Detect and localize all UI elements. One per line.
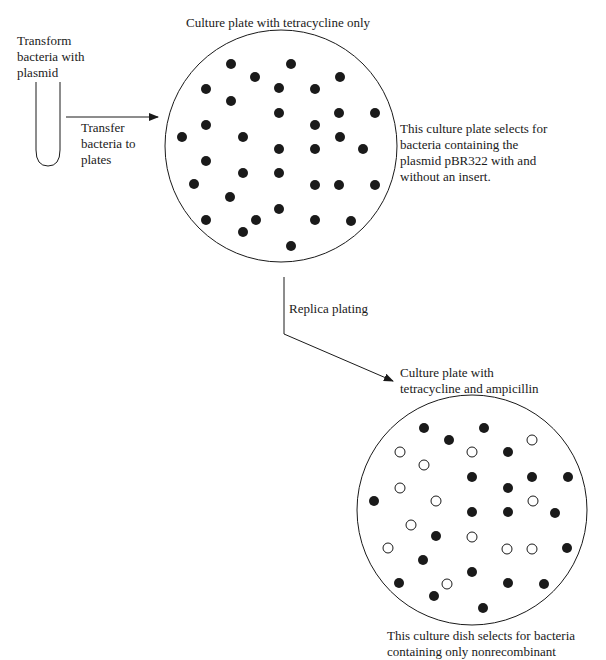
bacterial-colony-growing [310, 144, 320, 154]
bacterial-colony-absent [419, 460, 429, 470]
bacterial-colony-growing [467, 567, 477, 577]
bacterial-colony-growing [334, 180, 344, 190]
transform-label: Transform bacteria with plasmid [17, 33, 85, 81]
bacterial-colony-absent [528, 496, 538, 506]
bacterial-colony-absent [395, 447, 405, 457]
bacterial-colony-growing [238, 227, 248, 237]
bacterial-colony-growing [274, 168, 284, 178]
bacterial-colony-growing [346, 216, 356, 226]
bacterial-colony-absent [527, 544, 537, 554]
bacterial-colony-growing [201, 156, 211, 166]
bacterial-colony-growing [467, 472, 477, 482]
bacterial-colony-growing [310, 180, 320, 190]
bacterial-colony-absent [383, 543, 393, 553]
bacterial-colony-growing [310, 120, 320, 130]
bacterial-colony-growing [201, 120, 211, 130]
bacterial-colony-absent [527, 435, 537, 445]
replica-plating-arrow [284, 277, 393, 381]
bacterial-colony-growing [503, 507, 513, 517]
bacterial-colony-growing [201, 215, 211, 225]
bacterial-colony-growing [419, 423, 429, 433]
bacterial-colony-growing [238, 168, 248, 178]
bacterial-colony-growing [225, 192, 235, 202]
transfer-label: Transfer bacteria to plates [81, 120, 136, 168]
test-tube-icon [36, 82, 60, 166]
plate2-title: Culture plate with tetracycline and ampi… [400, 365, 539, 397]
bacterial-colony-growing [274, 204, 284, 214]
bacterial-colony-growing [503, 578, 513, 588]
replica-plating-label: Replica plating [289, 301, 368, 317]
bacterial-colony-growing [335, 132, 345, 142]
bacterial-colony-growing [274, 83, 284, 93]
bacterial-colony-growing [358, 144, 368, 154]
bacterial-colony-absent [502, 544, 512, 554]
bacterial-colony-absent [431, 496, 441, 506]
bacterial-colony-growing [177, 132, 187, 142]
plate1-title: Culture plate with tetracycline only [186, 15, 370, 31]
bacterial-colony-growing [550, 508, 560, 518]
bacterial-colony-growing [238, 132, 248, 142]
bacterial-colony-growing [478, 603, 488, 613]
bacterial-colony-absent [442, 579, 452, 589]
bacterial-colony-growing [503, 447, 513, 457]
bacterial-colony-absent [406, 520, 416, 530]
bacterial-colony-growing [444, 435, 454, 445]
bacterial-colony-growing [431, 531, 441, 541]
bacterial-colony-growing [274, 144, 284, 154]
bacterial-colony-growing [369, 496, 379, 506]
bacterial-colony-growing [539, 579, 549, 589]
plate2-note: This culture dish selects for bacteria c… [387, 628, 575, 660]
bacterial-colony-growing [467, 507, 477, 517]
bacterial-colony-growing [274, 108, 284, 118]
bacterial-colony-growing [479, 423, 489, 433]
bacterial-colony-growing [250, 72, 260, 82]
bacterial-colony-growing [527, 472, 537, 482]
bacterial-colony-growing [189, 179, 199, 189]
bacterial-colony-growing [563, 472, 573, 482]
bacterial-colony-absent [467, 447, 477, 457]
bacterial-colony-growing [418, 555, 428, 565]
plate-tetracycline-ampicillin [357, 395, 587, 625]
bacterial-colony-growing [310, 215, 320, 225]
bacterial-colony-growing [429, 591, 439, 601]
bacterial-colony-growing [226, 59, 236, 69]
bacterial-colony-growing [226, 96, 236, 106]
bacterial-colony-growing [503, 483, 513, 493]
bacterial-colony-growing [370, 108, 380, 118]
plate1-note: This culture plate selects for bacteria … [400, 121, 547, 185]
bacterial-colony-growing [562, 543, 572, 553]
bacterial-colony-growing [370, 180, 380, 190]
bacterial-colony-growing [286, 59, 296, 69]
bacterial-colony-growing [334, 108, 344, 118]
bacterial-colony-growing [310, 84, 320, 94]
bacterial-colony-growing [286, 241, 296, 251]
bacterial-colony-growing [201, 84, 211, 94]
bacterial-colony-growing [251, 215, 261, 225]
bacterial-colony-absent [395, 483, 405, 493]
bacterial-colony-absent [467, 532, 477, 542]
bacterial-colony-growing [335, 72, 345, 82]
bacterial-colony-growing [394, 578, 404, 588]
plate-tetracycline-only [165, 30, 397, 262]
